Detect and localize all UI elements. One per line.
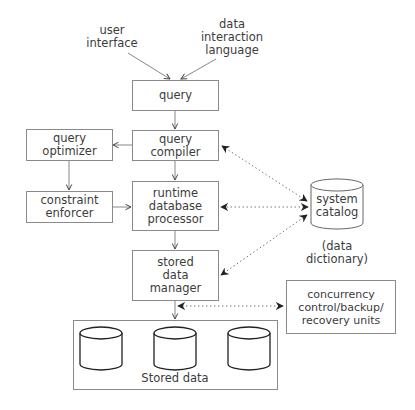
dotted-catalog-compiler: [222, 146, 307, 201]
database-cylinder-icon-2: [154, 327, 196, 370]
label-user-interface: user interface: [72, 24, 152, 50]
node-stored-data-manager: stored data manager: [132, 250, 219, 301]
node-runtime-label: runtime database processor: [148, 187, 204, 226]
node-query-compiler-label: query compiler: [150, 133, 200, 159]
node-query-compiler: query compiler: [132, 130, 219, 161]
node-concurrency-label: concurrency control/backup/ recovery uni…: [298, 288, 383, 327]
node-constraint-enforcer-label: constraint enforcer: [41, 194, 99, 220]
node-query-optimizer: query optimizer: [26, 129, 113, 161]
database-cylinder-icon-1: [80, 327, 122, 370]
dotted-catalog-manager: [221, 215, 307, 275]
node-query: query: [132, 80, 219, 111]
node-concurrency-control: concurrency control/backup/ recovery uni…: [286, 280, 396, 334]
label-data-dictionary: (data dictionary): [297, 240, 377, 266]
node-query-optimizer-label: query optimizer: [42, 132, 96, 158]
node-query-label: query: [159, 89, 192, 102]
label-system-catalog: system catalog: [307, 193, 367, 219]
node-stored-data-manager-label: stored data manager: [150, 256, 202, 295]
label-stored-data: Stored data: [125, 372, 225, 385]
database-cylinder-icon-3: [228, 327, 270, 370]
arrow-dil-to-query: [181, 59, 216, 79]
arrow-user-interface-to-query: [128, 53, 170, 79]
node-constraint-enforcer: constraint enforcer: [26, 191, 113, 223]
node-runtime-database-processor: runtime database processor: [132, 181, 219, 231]
label-data-interaction-language: data interaction language: [192, 18, 272, 57]
